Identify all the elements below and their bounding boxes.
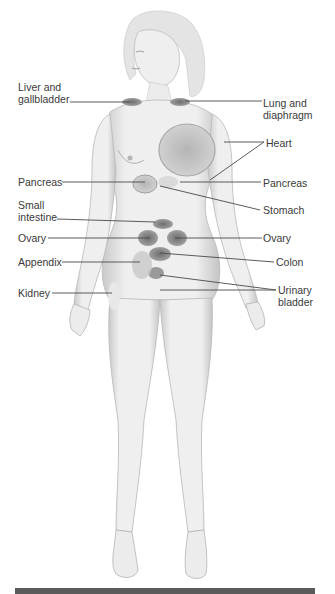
label-kidney: Kidney (18, 287, 50, 299)
label-pancreas-right: Pancreas (263, 177, 307, 189)
zone-lung (170, 98, 190, 106)
label-heart: Heart (266, 137, 292, 149)
zone-appendix (132, 251, 152, 279)
zone-kidney (108, 282, 120, 310)
zone-heart (159, 124, 215, 176)
label-small-intestine: Small intestine (18, 199, 57, 223)
label-pancreas-left: Pancreas (18, 176, 62, 188)
label-stomach: Stomach (263, 204, 304, 216)
zone-pancreas (133, 175, 157, 193)
label-ovary-right: Ovary (263, 232, 291, 244)
label-urinary-bladder: Urinary bladder (278, 284, 313, 308)
zone-small-intestine (153, 219, 173, 229)
label-appendix: Appendix (18, 256, 62, 268)
label-lung-diaphragm: Lung and diaphragm (263, 97, 313, 121)
label-ovary-left: Ovary (18, 232, 46, 244)
label-liver-gallbladder: Liver and gallbladder (18, 81, 69, 105)
legs (109, 298, 213, 579)
right-arm (208, 114, 265, 330)
label-colon: Colon (276, 256, 303, 268)
bottom-divider-bar (15, 588, 315, 594)
